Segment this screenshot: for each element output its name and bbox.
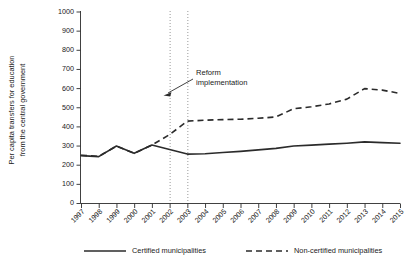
annotation-arrow-head [164, 92, 172, 96]
y-axis-ticks: 01002003004005006007008009001000 [58, 7, 81, 208]
x-tick-label-2001: 2001 [140, 207, 158, 225]
data-series-layer [81, 89, 400, 157]
x-tick-label-2008: 2008 [264, 207, 282, 225]
x-tick-label-2003: 2003 [175, 207, 193, 225]
x-tick-label-1999: 1999 [104, 207, 122, 225]
x-tick-label-1997: 1997 [69, 207, 87, 225]
y-tick-label-100: 100 [62, 179, 74, 188]
x-tick-label-2000: 2000 [122, 207, 140, 225]
reference-lines [170, 11, 188, 204]
annotation-layer: Reform implementation [164, 68, 248, 97]
y-tick-label-400: 400 [62, 122, 74, 131]
x-tick-label-2007: 2007 [246, 207, 264, 225]
y-tick-label-800: 800 [62, 45, 74, 54]
y-tick-label-0: 0 [70, 198, 74, 207]
x-tick-label-2012: 2012 [335, 207, 353, 225]
x-tick-label-2009: 2009 [281, 207, 299, 225]
y-tick-label-300: 300 [62, 141, 74, 150]
x-tick-label-2013: 2013 [352, 207, 370, 225]
annotation-text-line2: implementation [196, 78, 248, 87]
y-axis-title: Per capita transfers for education from … [7, 56, 27, 165]
line-chart: Per capita transfers for education from … [0, 0, 416, 268]
annotation-text-line1: Reform [196, 68, 221, 77]
y-tick-label-600: 600 [62, 84, 74, 93]
x-tick-label-2005: 2005 [211, 207, 229, 225]
y-axis-title-line2: from the central government [18, 64, 27, 156]
x-tick-label-1998: 1998 [86, 207, 104, 225]
legend-label-non-certified: Non-certified municipalities [294, 246, 383, 255]
x-tick-label-2014: 2014 [370, 207, 388, 225]
series-certified-municipalities [81, 142, 400, 157]
y-tick-label-900: 900 [62, 26, 74, 35]
y-tick-label-200: 200 [62, 160, 74, 169]
x-tick-label-2004: 2004 [193, 207, 211, 225]
x-tick-label-2010: 2010 [299, 207, 317, 225]
annotation-arrow-line [168, 79, 193, 93]
x-tick-label-2011: 2011 [317, 207, 334, 224]
x-axis-ticks: 1997199819992000200120022003200420052006… [69, 204, 406, 225]
series-non-certified-municipalities [81, 89, 400, 157]
y-axis-title-line1: Per capita transfers for education [7, 56, 16, 165]
y-tick-label-700: 700 [62, 64, 74, 73]
y-tick-label-500: 500 [62, 103, 74, 112]
x-tick-label-2015: 2015 [388, 207, 406, 225]
chart-figure: Per capita transfers for education from … [0, 0, 416, 268]
legend-label-certified: Certified municipalities [132, 246, 206, 255]
x-tick-label-2002: 2002 [157, 207, 175, 225]
x-tick-label-2006: 2006 [228, 207, 246, 225]
chart-legend: Certified municipalities Non-certified m… [84, 246, 383, 255]
y-tick-label-1000: 1000 [58, 7, 74, 16]
